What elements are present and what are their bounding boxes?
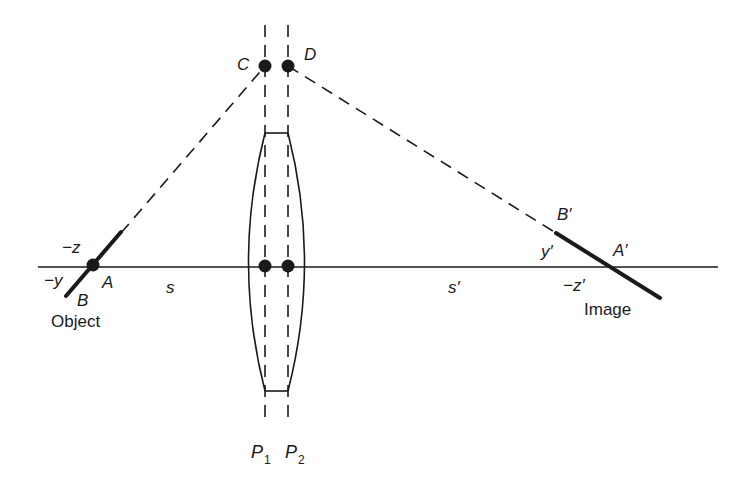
label-a: A bbox=[101, 273, 113, 292]
thick-lens bbox=[249, 133, 305, 391]
label-p1-subscript: 1 bbox=[264, 453, 271, 467]
label-neg-z: −z bbox=[62, 238, 81, 257]
label-p1: P 1 bbox=[251, 442, 271, 467]
label-neg-y: −y bbox=[44, 271, 64, 290]
label-p2: P 2 bbox=[285, 442, 305, 467]
label-image: Image bbox=[584, 300, 631, 319]
ray-d-to-image bbox=[288, 66, 556, 233]
label-y-prime: y′ bbox=[540, 242, 554, 261]
label-p2-letter: P bbox=[285, 442, 297, 462]
label-neg-z-prime: −z′ bbox=[563, 276, 585, 295]
point-d-dot bbox=[282, 60, 295, 73]
label-a-prime: A′ bbox=[612, 241, 628, 260]
label-p1-letter: P bbox=[251, 442, 263, 462]
label-object: Object bbox=[51, 312, 100, 331]
label-b: B bbox=[77, 291, 88, 310]
label-c: C bbox=[237, 55, 250, 74]
label-p2-subscript: 2 bbox=[298, 453, 305, 467]
label-s: s bbox=[166, 278, 175, 297]
label-b-prime: B′ bbox=[557, 205, 572, 224]
label-s-prime: s′ bbox=[448, 278, 461, 297]
diagram-canvas: C D −z −y A B Object s s′ B′ y′ A′ −z′ I… bbox=[0, 0, 752, 485]
ray-object-to-c bbox=[121, 66, 265, 233]
principal-point-h1-dot bbox=[259, 260, 272, 273]
point-a-dot bbox=[87, 259, 100, 272]
point-c-dot bbox=[259, 60, 272, 73]
optics-diagram: C D −z −y A B Object s s′ B′ y′ A′ −z′ I… bbox=[0, 0, 752, 485]
label-d: D bbox=[304, 45, 316, 64]
principal-point-h2-dot bbox=[282, 260, 295, 273]
